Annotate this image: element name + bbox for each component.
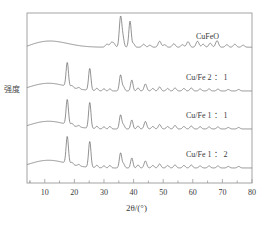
y-axis-label-char-1: 强度 <box>4 86 20 95</box>
x-axis-ticks <box>30 179 252 183</box>
x-tick-label: 50 <box>153 188 173 197</box>
x-axis-label-text: 2θ/(°) <box>126 203 147 213</box>
curve-label-cu-fe-1-2: Cu/Fe 1 ： 2 <box>186 148 228 159</box>
x-tick-label: 20 <box>64 188 84 197</box>
x-axis-label: 2θ/(°) <box>0 203 273 213</box>
y-axis-label: 强度 <box>4 86 20 95</box>
curve-label-cu-fe-1-1: Cu/Fe 1 ： 1 <box>186 109 228 120</box>
x-tick-label: 10 <box>35 188 55 197</box>
x-tick-label: 30 <box>94 188 114 197</box>
x-tick-label: 60 <box>183 188 203 197</box>
curve-label-cufeo: CuFeO <box>196 32 219 41</box>
curve-label-cu-fe-2-1: Cu/Fe 2 ： 1 <box>186 71 228 82</box>
xrd-chart-figure: 强度 1020304050607080 2θ/(°) CuFeOCu/Fe 2 … <box>0 0 273 230</box>
x-tick-label: 40 <box>124 188 144 197</box>
x-tick-label: 70 <box>212 188 232 197</box>
x-tick-label: 80 <box>242 188 262 197</box>
